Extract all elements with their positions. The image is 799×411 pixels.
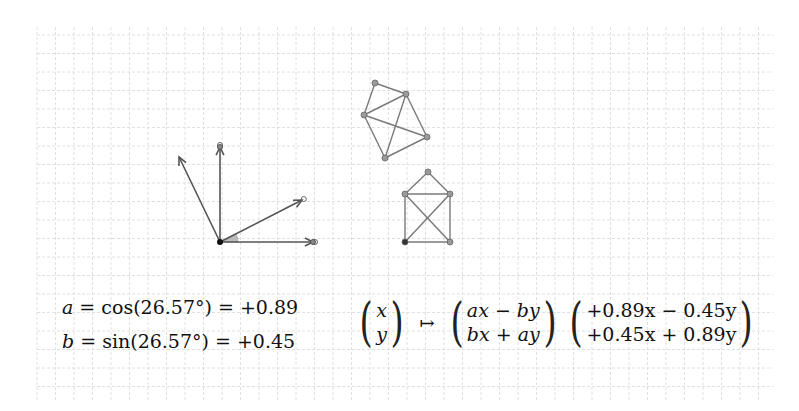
graph-node (447, 239, 453, 245)
symbolic-top: ax − by (467, 298, 540, 322)
rotation-mapping: ( x y ) ↦ ( ax − by bx + ay ) ( +0.89x −… (356, 296, 757, 348)
left-paren: ( (360, 296, 373, 348)
left-paren: ( (450, 296, 463, 348)
vector-e1-rotated (220, 197, 306, 242)
graph-node (382, 155, 388, 161)
formula-a: a = cos(26.57°) = +0.89 (62, 296, 298, 318)
formula-b: b = sin(26.57°) = +0.45 (62, 330, 295, 352)
graph-node (402, 239, 408, 245)
numeric-top: +0.89x − 0.45y (586, 298, 736, 322)
graph-node (372, 80, 378, 86)
right-paren: ) (543, 296, 556, 348)
mapsto-arrow: ↦ (419, 312, 434, 333)
graph-node (425, 169, 431, 175)
input-vector: ( x y ) (356, 296, 407, 348)
origin-dot (217, 239, 223, 245)
right-paren: ) (391, 296, 404, 348)
graph-node (424, 134, 430, 140)
numeric-vector: ( +0.89x − 0.45y +0.45x + 0.89y ) (566, 296, 757, 348)
rotated-house (361, 80, 430, 161)
graph-node (361, 112, 367, 118)
left-paren: ( (570, 296, 583, 348)
b-value: +0.45 (237, 330, 295, 352)
right-paren: ) (740, 296, 753, 348)
graph-node (402, 191, 408, 197)
original-house (402, 169, 453, 245)
graph-node (447, 191, 453, 197)
vector-e2 (216, 143, 224, 243)
input-y: y (376, 322, 387, 346)
var-b: b (62, 330, 74, 352)
input-x: x (376, 298, 387, 322)
b-expression: = sin(26.57°) = (74, 330, 237, 352)
a-expression: = cos(26.57°) = (73, 296, 240, 318)
basis-vectors (179, 143, 318, 246)
a-value: +0.89 (240, 296, 298, 318)
symbolic-vector: ( ax − by bx + ay ) (447, 296, 561, 348)
var-a: a (62, 296, 73, 318)
numeric-bottom: +0.45x + 0.89y (586, 322, 736, 346)
graph-node (403, 91, 409, 97)
symbolic-bottom: bx + ay (467, 322, 540, 346)
